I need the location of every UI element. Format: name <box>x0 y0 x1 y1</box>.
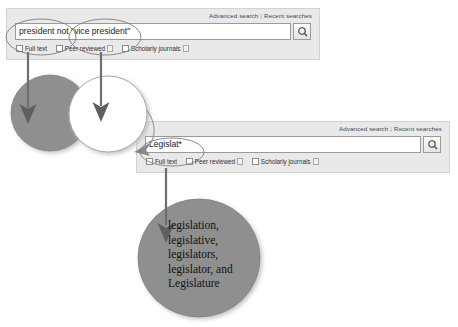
callout-line: legislator, and <box>168 262 278 277</box>
highlight-ellipse-legislat <box>140 138 204 166</box>
diagram-canvas: Advanced search|Recent searches presiden… <box>0 0 458 327</box>
callout-line: legislative, <box>168 233 278 248</box>
callout-text: legislation, legislative, legislators, l… <box>168 218 278 291</box>
bubble-white-right <box>69 76 147 152</box>
callout-line: legislation, <box>168 218 278 233</box>
curved-connector-arrowhead <box>134 143 150 156</box>
callout-line: Legislature <box>168 276 278 291</box>
callout-line: legislators, <box>168 247 278 262</box>
highlight-ellipse-president-not <box>6 19 76 55</box>
highlight-ellipse-vice-president <box>69 19 141 55</box>
